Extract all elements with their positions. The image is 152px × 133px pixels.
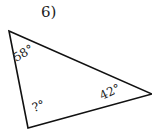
angle-label-right: 42° (97, 81, 122, 103)
problem-number: 6) (41, 3, 56, 21)
triangle-diagram: 6) 58° 42° ?° (0, 0, 152, 133)
angle-label-bottom-left: ?° (30, 97, 46, 114)
